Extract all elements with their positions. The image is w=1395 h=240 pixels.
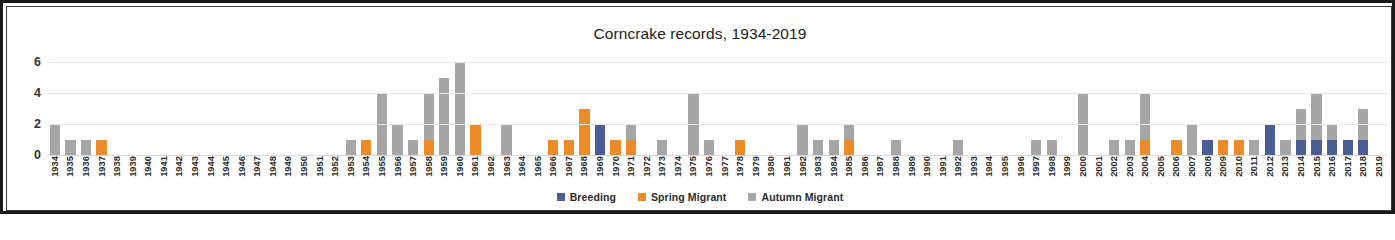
- bar-segment: [65, 140, 75, 155]
- legend-item[interactable]: Breeding: [557, 191, 616, 203]
- x-axis-tick: 1975: [686, 155, 702, 189]
- x-axis-tick: 1940: [140, 155, 156, 189]
- bar-segment: [1125, 140, 1135, 155]
- bar-segment: [1218, 140, 1228, 155]
- x-axis-tick-label: 1986: [860, 156, 869, 177]
- x-axis-tick-label: 1954: [362, 156, 371, 177]
- legend-item[interactable]: Spring Migrant: [638, 191, 726, 203]
- x-axis-tick: 1962: [483, 155, 499, 189]
- bar-stack: [1031, 140, 1041, 155]
- bar-stack: [1249, 140, 1259, 155]
- bar-stack: [891, 140, 901, 155]
- bar-segment: [797, 124, 807, 155]
- legend-swatch-icon: [557, 193, 565, 201]
- bar-segment: [626, 140, 636, 155]
- bar-segment: [81, 140, 91, 155]
- x-axis-tick: 1987: [873, 155, 889, 189]
- x-axis-tick-label: 1936: [81, 156, 90, 177]
- bar-segment: [424, 140, 434, 155]
- x-axis-tick: 1941: [156, 155, 172, 189]
- bar-stack: [1202, 140, 1212, 155]
- x-axis-tick: 1951: [312, 155, 328, 189]
- x-axis-tick-label: 1956: [393, 156, 402, 177]
- gridline: [47, 93, 1387, 94]
- bar-stack: [813, 140, 823, 155]
- x-axis-tick-label: 1967: [564, 156, 573, 177]
- x-axis-tick: 2018: [1356, 155, 1372, 189]
- x-axis-tick: 2006: [1169, 155, 1185, 189]
- x-axis-tick: 1935: [63, 155, 79, 189]
- bar-segment: [1047, 140, 1057, 155]
- y-axis: 0246: [17, 47, 47, 155]
- x-axis-tick: 2013: [1278, 155, 1294, 189]
- legend-label: Spring Migrant: [651, 191, 726, 203]
- bar-segment: [1140, 93, 1150, 139]
- bar-stack: [1358, 109, 1368, 155]
- x-axis-tick-label: 1963: [502, 156, 511, 177]
- x-axis-tick-label: 1953: [346, 156, 355, 177]
- x-axis-tick: 1949: [281, 155, 297, 189]
- x-axis-tick-label: 1997: [1032, 156, 1041, 177]
- bar-segment: [1234, 140, 1244, 155]
- x-axis-tick-label: 1958: [424, 156, 433, 177]
- x-axis-tick: 1982: [795, 155, 811, 189]
- bar-stack: [96, 140, 106, 155]
- bar-stack: [470, 124, 480, 155]
- x-axis-tick: 1980: [764, 155, 780, 189]
- x-axis-tick: 1956: [390, 155, 406, 189]
- x-axis-tick: 1985: [841, 155, 857, 189]
- x-axis-tick: 1978: [732, 155, 748, 189]
- x-axis-tick-label: 2001: [1094, 156, 1103, 177]
- x-axis-tick-label: 2015: [1312, 156, 1321, 177]
- bar-segment: [1265, 124, 1275, 155]
- x-axis-tick-label: 1994: [985, 156, 994, 177]
- x-axis-tick-label: 1959: [440, 156, 449, 177]
- x-axis-tick-label: 1976: [704, 156, 713, 177]
- x-axis-tick: 1965: [530, 155, 546, 189]
- x-axis-tick-label: 1991: [938, 156, 947, 177]
- bar-segment: [361, 140, 371, 155]
- x-axis-tick-label: 2008: [1203, 156, 1212, 177]
- bar-stack: [735, 140, 745, 155]
- legend-item[interactable]: Autumn Migrant: [748, 191, 843, 203]
- bar-stack: [50, 124, 60, 155]
- plot-region: 0246: [17, 47, 1387, 155]
- x-axis-tick-label: 1942: [175, 156, 184, 177]
- bar-segment: [1187, 124, 1197, 155]
- x-axis-tick: 1994: [982, 155, 998, 189]
- bar-stack: [610, 140, 620, 155]
- x-axis-tick: 1970: [608, 155, 624, 189]
- x-axis-tick-label: 2017: [1343, 156, 1352, 177]
- x-axis-tick: 1967: [561, 155, 577, 189]
- bar-segment: [1280, 140, 1290, 155]
- x-axis-tick: 1986: [857, 155, 873, 189]
- bar-stack: [1327, 124, 1337, 155]
- bar-segment: [1311, 93, 1321, 139]
- x-axis-tick: 1954: [359, 155, 375, 189]
- x-axis-tick: 1991: [935, 155, 951, 189]
- bar-segment: [1140, 140, 1150, 155]
- bar-segment: [953, 140, 963, 155]
- x-axis: 1934193519361937193819391940194119421943…: [47, 155, 1387, 189]
- x-axis-tick: 2017: [1340, 155, 1356, 189]
- x-axis-tick: 2016: [1324, 155, 1340, 189]
- bar-stack: [439, 78, 449, 155]
- bar-stack: [455, 62, 465, 155]
- x-axis-tick-label: 1965: [533, 156, 542, 177]
- x-axis-tick-label: 1985: [845, 156, 854, 177]
- bar-stack: [844, 124, 854, 155]
- x-axis-tick-label: 1952: [330, 156, 339, 177]
- bar-segment: [548, 140, 558, 155]
- legend-swatch-icon: [748, 193, 756, 201]
- x-axis-tick: 1976: [701, 155, 717, 189]
- x-axis-tick: 1948: [265, 155, 281, 189]
- bar-stack: [408, 140, 418, 155]
- x-axis-tick: 2010: [1231, 155, 1247, 189]
- x-axis-tick-label: 1975: [689, 156, 698, 177]
- legend-swatch-icon: [638, 193, 646, 201]
- bar-segment: [346, 140, 356, 155]
- x-axis-tick: 1937: [94, 155, 110, 189]
- x-axis-tick: 2019: [1371, 155, 1387, 189]
- x-axis-tick-label: 1939: [128, 156, 137, 177]
- x-axis-tick-label: 2003: [1125, 156, 1134, 177]
